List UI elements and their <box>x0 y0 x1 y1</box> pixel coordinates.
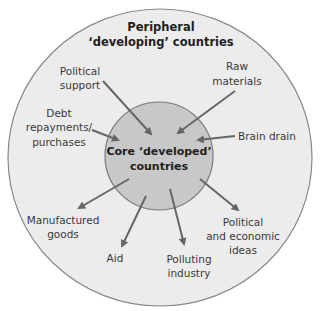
label-aid: Aid <box>107 252 124 264</box>
label-debt-line3: purchases <box>32 136 86 148</box>
label-political-line1: Political <box>60 65 100 77</box>
core-periphery-diagram: Peripheral ‘developing’ countries Core ‘… <box>0 0 324 311</box>
core-title-line1: Core ‘developed’ <box>106 145 211 158</box>
label-political-line2: support <box>60 79 100 91</box>
label-ideas-line2: and economic <box>206 230 280 242</box>
label-manufactured-line1: Manufactured <box>27 214 100 226</box>
label-polluting-line2: industry <box>167 267 210 279</box>
periphery-title-line1: Peripheral <box>127 20 194 34</box>
label-raw-line2: materials <box>212 75 261 87</box>
label-raw-line1: Raw <box>226 60 248 72</box>
label-brain-drain: Brain drain <box>238 130 296 142</box>
label-ideas-line1: Political <box>223 216 263 228</box>
periphery-title-line2: ‘developing’ countries <box>88 35 234 49</box>
label-debt-line1: Debt <box>46 107 71 119</box>
label-ideas-line3: ideas <box>229 244 257 256</box>
label-polluting-line1: Polluting <box>166 253 211 265</box>
label-debt-line2: repayments/ <box>26 121 93 133</box>
label-manufactured-line2: goods <box>47 228 79 240</box>
core-title-line2: countries <box>130 160 189 173</box>
